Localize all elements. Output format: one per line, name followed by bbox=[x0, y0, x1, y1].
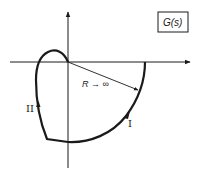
curve-label-ii: II bbox=[26, 103, 34, 114]
nyquist-diagram: R → ∞ II I G(s) bbox=[0, 0, 199, 171]
title-label: G(s) bbox=[163, 17, 182, 28]
curve-segment-i bbox=[68, 62, 145, 142]
curve-segment-ii bbox=[36, 50, 68, 142]
radius-label: R → ∞ bbox=[82, 79, 109, 89]
curve-label-i: I bbox=[128, 118, 132, 129]
